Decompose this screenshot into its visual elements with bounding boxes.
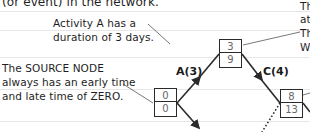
late-time: 0 — [154, 102, 177, 117]
node-after-c: 8 13 — [280, 89, 303, 118]
right-note-line1: Th — [300, 0, 310, 12]
early-time: 0 — [154, 88, 177, 102]
source-node-note-line2: always has an early time — [2, 76, 136, 88]
right-note-line3: Th — [300, 27, 310, 39]
activity-a-label: A(3) — [176, 65, 202, 78]
node-after-a: 3 9 — [219, 39, 242, 68]
late-time: 9 — [219, 53, 242, 68]
right-note-line4: W — [300, 41, 310, 53]
source-node-note-line1: The SOURCE NODE — [2, 62, 104, 74]
source-node: 0 0 — [154, 88, 177, 117]
early-time: 8 — [280, 89, 303, 103]
activity-a-note-line1: Activity A has a — [53, 17, 136, 29]
source-node-note-line3: and late time of ZERO. — [2, 90, 123, 102]
activity-a-note-line2: duration of 3 days. — [53, 31, 154, 43]
late-time: 13 — [280, 103, 303, 118]
activity-c-label: C(4) — [263, 65, 289, 78]
right-note-line2: at — [300, 13, 310, 25]
header-text: (or event) in the network. — [2, 0, 159, 8]
early-time: 3 — [219, 39, 242, 53]
